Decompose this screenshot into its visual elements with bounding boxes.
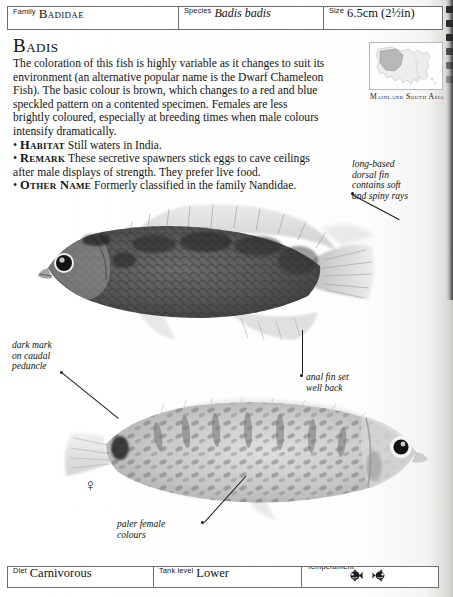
- female-symbol: ♀: [84, 477, 97, 494]
- tank-level-value: Lower: [196, 567, 229, 580]
- diet-label: Diet: [13, 567, 27, 575]
- header-cell-size: Size 6.5cm (2½in): [323, 7, 444, 29]
- female-fish-photo: [62, 392, 430, 527]
- annotation-caudal-peduncle: dark mark on caudal peduncle: [12, 340, 104, 372]
- footer-cell-diet: Diet Carnivorous: [8, 567, 153, 587]
- tank-level-label: Tank level: [159, 567, 193, 575]
- description-block: The coloration of this fish is highly va…: [13, 57, 325, 193]
- bullet-icon: •: [13, 179, 20, 192]
- annotation-dot-anal-fin: [300, 374, 303, 377]
- temperament-label: Temperament: [307, 567, 354, 571]
- fish-icon: [372, 569, 387, 582]
- leader-line-anal-fin: [302, 330, 303, 374]
- annotation-dorsal-fin: long-based dorsal fin contains soft and …: [352, 159, 448, 201]
- family-label: Family: [13, 8, 36, 16]
- fish-icon: [348, 569, 363, 582]
- intro-paragraph: The coloration of this fish is highly va…: [13, 57, 325, 139]
- header-table: Family Badidae Species Badis badis Size …: [7, 6, 443, 30]
- species-label: Species: [184, 7, 211, 15]
- temperament-icon-group: [348, 569, 387, 582]
- size-label: Size: [329, 7, 344, 15]
- fish-illustration-female: [62, 392, 430, 527]
- fish-illustration-male: [36, 188, 378, 353]
- annotation-anal-fin: anal fin set well back: [306, 372, 392, 393]
- fact-keyword: Remark: [20, 151, 65, 165]
- map-region-label: Mainland South Asia: [366, 92, 448, 102]
- page-background: Family Badidae Species Badis badis Size …: [0, 0, 453, 597]
- annotation-female-colours: paler female colours: [117, 519, 199, 540]
- fact-keyword: Habitat: [20, 138, 65, 152]
- family-value: Badidae: [39, 7, 84, 20]
- male-fish-photo: [36, 188, 378, 353]
- species-value: Badis badis: [214, 7, 270, 19]
- footer-cell-tank-level: Tank level Lower: [153, 567, 301, 587]
- size-value: 6.5cm (2½in): [347, 7, 415, 20]
- diet-value: Carnivorous: [30, 567, 92, 580]
- fact-remark: • Remark These secretive spawners stick …: [13, 152, 325, 179]
- distribution-map: [369, 42, 443, 90]
- header-cell-species: Species Badis badis: [178, 7, 323, 29]
- bullet-icon: •: [13, 139, 20, 152]
- page-title: Badis: [13, 35, 59, 57]
- header-cell-family: Family Badidae: [8, 7, 178, 29]
- bullet-icon: •: [13, 152, 20, 165]
- fact-habitat: • Habitat Still waters in India.: [13, 139, 325, 153]
- fact-text: Still waters in India.: [68, 139, 162, 152]
- map-icon: [370, 43, 442, 89]
- book-binding-edge: [446, 0, 453, 300]
